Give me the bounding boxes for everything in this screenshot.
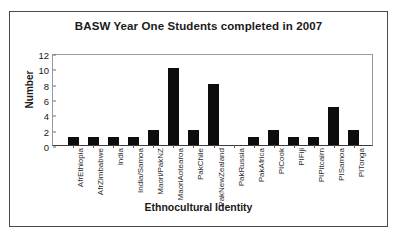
bar[interactable] [268, 130, 279, 145]
y-tick-label: 12 [38, 50, 49, 61]
y-tick-label: 6 [44, 96, 49, 107]
bar-slot [304, 55, 324, 145]
bar-slot [324, 55, 344, 145]
y-tick-label: 8 [44, 80, 49, 91]
bar-slot [123, 55, 143, 145]
bar-slot [203, 55, 223, 145]
chart-figure: BASW Year One Students completed in 2007… [9, 11, 388, 227]
x-axis-title: Ethnocultural Identity [10, 201, 387, 213]
bar[interactable] [188, 130, 199, 145]
bar[interactable] [128, 137, 139, 145]
bar[interactable] [348, 130, 359, 145]
y-axis-title: Number [24, 60, 35, 120]
bar-slot [183, 55, 203, 145]
bar[interactable] [328, 107, 339, 145]
bar[interactable] [308, 137, 319, 145]
y-tick-label: 4 [44, 111, 49, 122]
x-tick-label: PITonga [357, 148, 366, 177]
bar[interactable] [168, 68, 179, 145]
bar-slot [244, 55, 264, 145]
bar[interactable] [148, 130, 159, 145]
bar-slot [103, 55, 123, 145]
bar-slot [224, 55, 244, 145]
y-tick-label: 2 [44, 126, 49, 137]
bar-slot [83, 55, 103, 145]
y-tick-label: 10 [38, 65, 49, 76]
bar[interactable] [88, 137, 99, 145]
bar[interactable] [68, 137, 79, 145]
y-tick-label: 0 [44, 142, 49, 153]
chart-title: BASW Year One Students completed in 2007 [10, 20, 387, 32]
bar[interactable] [288, 137, 299, 145]
bar-slot [264, 55, 284, 145]
plot-area: 024681012 [52, 54, 373, 146]
bar-slot [163, 55, 183, 145]
bar-slot [143, 55, 163, 145]
bar-slot [284, 55, 304, 145]
bar[interactable] [108, 137, 119, 145]
bar[interactable] [248, 137, 259, 145]
bars-layer [53, 55, 372, 145]
bar[interactable] [208, 84, 219, 145]
bar-slot [344, 55, 364, 145]
bar-slot [63, 55, 83, 145]
